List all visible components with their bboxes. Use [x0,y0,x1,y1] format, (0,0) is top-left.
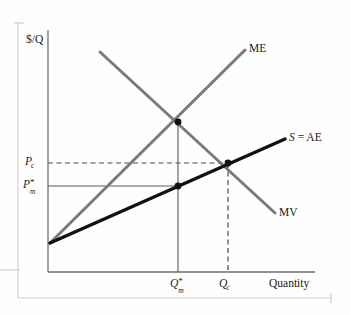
curve-label-mv: MV [279,206,298,218]
price-label-pc-sub: c [31,161,34,170]
price-label-pm-sub: m [30,187,35,196]
y-axis-label: $/Q [26,33,43,45]
curve-ME [50,50,245,243]
curve-MV [100,52,275,213]
curve-label-me: ME [249,42,266,54]
price-label-pm-sup: * [30,177,35,187]
diagram-canvas [0,0,350,315]
curves [50,50,285,243]
price-label-pm-base: P [23,178,30,190]
qty-label-qc: Qc [219,277,231,289]
qty-label-qm-sub: m [178,286,183,295]
monopsony-figure: $/Q Quantity ME MV S = AE Pc P*m Q*m Qc [0,0,350,315]
curve-label-s-ae-ae: AE [306,131,321,143]
price-label-pc: Pc [25,155,35,167]
point-monopsony-price [175,183,182,190]
point-monopsony-optimum [175,119,182,126]
qty-label-qm-base: Q [170,277,178,289]
curve-label-s-ae-equals: = [295,131,307,143]
qty-label-qc-sub: c [226,283,229,292]
price-label-pm-star: P*m [23,178,30,190]
point-competitive-equilibrium [225,160,232,167]
qty-label-qm-star: Q*m [170,277,178,289]
x-axis-label: Quantity [269,277,309,289]
axes [48,30,315,272]
qty-label-qm-sup: * [178,276,183,286]
curve-label-s-ae: S = AE [289,131,322,143]
